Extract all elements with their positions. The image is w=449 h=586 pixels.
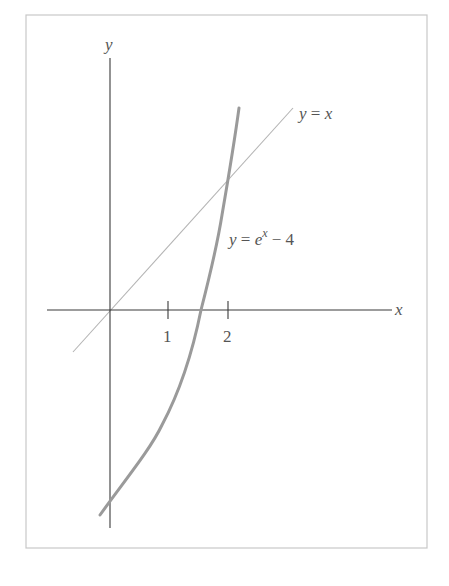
- y-axis-label: y: [103, 35, 113, 54]
- label-exp-tail: − 4: [268, 230, 295, 249]
- curve-exp-minus-4: [100, 108, 239, 515]
- label-y-equals-x-lhs: y: [297, 104, 307, 123]
- label-y-equals-x-rhs: x: [324, 104, 333, 123]
- diagram-figure: y x 1 2 y = x y = ex − 4: [0, 0, 449, 586]
- label-y-equals-x: y = x: [297, 104, 333, 123]
- tick-label-2: 2: [223, 327, 232, 346]
- label-y-equals-x-eq: =: [307, 104, 325, 123]
- label-exp-curve: y = ex − 4: [227, 226, 295, 249]
- tick-label-1: 1: [163, 327, 172, 346]
- x-axis-label: x: [394, 300, 403, 319]
- label-exp-eq: =: [237, 230, 255, 249]
- figure-frame: [26, 15, 427, 548]
- label-exp-lhs: y: [227, 230, 237, 249]
